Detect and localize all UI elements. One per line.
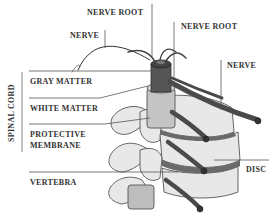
spinal-anatomy-diagram: NERVE ROOT NERVE ROOT NERVE NERVE GRAY M… [0, 0, 269, 221]
spinal-cord-stack [147, 60, 175, 128]
label-gray-matter: GRAY MATTER [30, 77, 92, 87]
label-nerve-left: NERVE [70, 31, 99, 41]
label-nerve-root-2: NERVE ROOT [181, 22, 237, 32]
label-spinal-cord: SPINAL CORD [7, 84, 17, 142]
label-nerve-right: NERVE [227, 61, 256, 71]
label-nerve-root-1: NERVE ROOT [87, 8, 143, 18]
label-disc: DISC [246, 165, 266, 175]
label-vertebra: VERTEBRA [30, 178, 77, 188]
label-white-matter: WHITE MATTER [30, 104, 98, 114]
label-protective-membrane-line1: PROTECTIVE [30, 130, 86, 140]
label-protective-membrane-line2: MEMBRANE [30, 141, 81, 151]
